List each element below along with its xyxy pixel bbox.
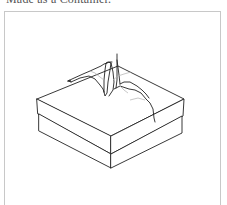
document-page: Made as a Container.	[0, 0, 227, 205]
crane-box-illustration	[0, 0, 227, 205]
